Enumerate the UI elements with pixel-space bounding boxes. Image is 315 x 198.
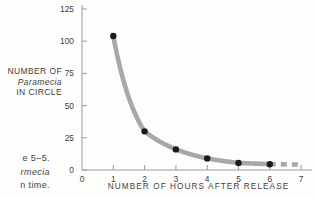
y-tick-label: 0 [69,165,74,175]
axis-lines [82,5,312,170]
data-point [141,128,147,134]
data-point [235,160,241,166]
data-point [110,33,116,39]
y-tick-label: 125 [60,4,74,14]
y-tick-label: 25 [65,133,75,143]
series-line [113,36,269,164]
y-tick-labels: 0255075100125 [60,4,74,175]
data-series [113,36,301,165]
x-axis-title: NUMBER OF HOURS AFTER RELEASE [82,182,315,191]
data-point [267,161,273,167]
y-tick-label: 75 [65,68,75,78]
plot-area: 0255075100125 01234567 [0,0,315,198]
y-tick-label: 50 [65,101,75,111]
y-tick-label: 100 [60,36,74,46]
figure-paramecia-decay: NUMBER OF Paramecia IN CIRCLE e 5–5. rme… [0,0,315,198]
data-markers [110,33,273,168]
data-point [204,155,210,161]
data-point [173,146,179,152]
